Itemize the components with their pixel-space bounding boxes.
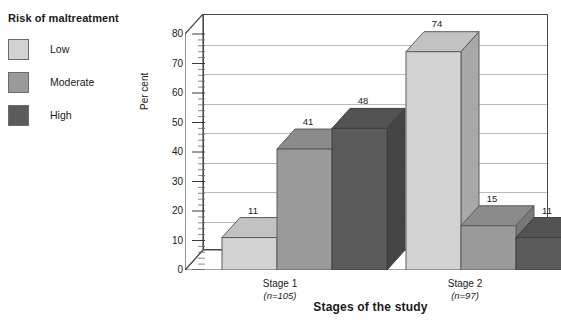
y-tick-80: 80 xyxy=(172,29,183,39)
bar-value-stage2-high: 11 xyxy=(532,206,561,216)
x-group-name-stage-2: Stage 2 xyxy=(420,278,510,290)
bar-series-group xyxy=(185,14,561,270)
legend-swatch-high xyxy=(8,105,29,126)
y-tick-20: 20 xyxy=(172,206,183,216)
bar-value-stage2-low: 74 xyxy=(422,19,452,29)
x-group-label-stage-2: Stage 2 (n=97) xyxy=(420,278,510,302)
legend-item-moderate: Moderate xyxy=(8,71,158,93)
x-group-name-stage-1: Stage 1 xyxy=(235,278,325,290)
bar-value-stage2-moderate: 15 xyxy=(477,194,507,204)
bar-value-stage1-moderate: 41 xyxy=(293,117,323,127)
y-tick-70: 70 xyxy=(172,59,183,69)
x-axis-title: Stages of the study xyxy=(90,300,561,314)
y-axis-title: Per cent xyxy=(140,73,150,110)
y-tick-60: 60 xyxy=(172,88,183,98)
legend-item-high: High xyxy=(8,104,158,126)
bar-chart-figure: Risk of maltreatment Low Moderate High P… xyxy=(0,0,561,331)
y-tick-0: 0 xyxy=(177,265,183,275)
bar-value-stage1-low: 11 xyxy=(238,206,268,216)
x-group-label-stage-1: Stage 1 (n=105) xyxy=(235,278,325,302)
y-tick-40: 40 xyxy=(172,147,183,157)
legend-item-low: Low xyxy=(8,38,158,60)
plot-area: 0 10 20 30 40 50 60 70 80 xyxy=(185,14,561,270)
legend-label-low: Low xyxy=(50,43,69,55)
legend-swatch-low xyxy=(8,39,29,60)
bar-stage1-high xyxy=(332,108,405,270)
legend-swatch-moderate xyxy=(8,72,29,93)
chart-legend: Risk of maltreatment Low Moderate High xyxy=(8,12,158,137)
y-tick-10: 10 xyxy=(172,236,183,246)
y-tick-30: 30 xyxy=(172,177,183,187)
legend-label-high: High xyxy=(50,109,72,121)
bar-value-stage1-high: 48 xyxy=(348,96,378,106)
legend-label-moderate: Moderate xyxy=(50,76,94,88)
legend-title: Risk of maltreatment xyxy=(8,12,158,25)
y-tick-50: 50 xyxy=(172,118,183,128)
